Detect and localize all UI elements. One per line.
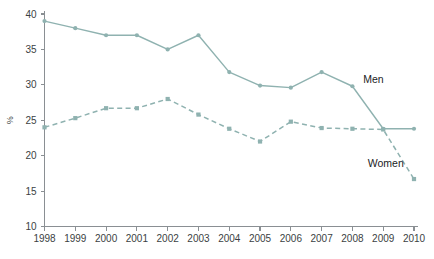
x-tick-label: 2003	[187, 233, 210, 244]
x-tick-label: 2009	[372, 233, 395, 244]
data-point-marker	[227, 127, 231, 131]
series-label-men: Men	[363, 73, 384, 85]
data-point-marker	[166, 97, 170, 101]
y-tick-label: 20	[25, 150, 37, 161]
y-tick-label: 15	[25, 186, 37, 197]
data-point-marker	[196, 112, 200, 116]
chart-canvas: 10152025303540 1998199920002001200220032…	[0, 0, 434, 259]
data-point-marker	[104, 33, 108, 37]
x-tick-label: 2002	[157, 233, 180, 244]
y-tick-label: 30	[25, 79, 37, 90]
data-point-marker	[73, 26, 77, 30]
data-point-marker	[350, 84, 354, 88]
series-label-women: Women	[368, 157, 404, 169]
data-point-marker	[381, 127, 385, 131]
data-point-marker	[166, 47, 170, 51]
data-point-marker	[73, 116, 77, 120]
x-tick-label: 2008	[341, 233, 364, 244]
data-point-marker	[320, 70, 324, 74]
data-point-marker	[412, 177, 416, 181]
data-point-marker	[227, 70, 231, 74]
data-point-marker	[289, 86, 293, 90]
x-tick-label: 2004	[218, 233, 241, 244]
x-tick-label: 2006	[280, 233, 303, 244]
data-point-marker	[42, 19, 46, 23]
y-axis-title: %	[5, 116, 15, 124]
data-point-marker	[104, 106, 108, 110]
x-tick-label: 1999	[64, 233, 87, 244]
x-tick-label: 2005	[249, 233, 272, 244]
x-tick-label: 2001	[126, 233, 149, 244]
data-point-marker	[412, 127, 416, 131]
data-point-marker	[135, 33, 139, 37]
line-chart: 10152025303540 1998199920002001200220032…	[0, 0, 434, 259]
data-point-marker	[320, 126, 324, 130]
data-point-marker	[289, 120, 293, 124]
data-point-marker	[258, 139, 262, 143]
x-tick-label: 2010	[403, 233, 426, 244]
data-point-marker	[196, 33, 200, 37]
y-tick-label: 35	[25, 44, 37, 55]
x-tick-label: 2007	[311, 233, 334, 244]
y-tick-label: 40	[25, 9, 37, 20]
y-tick-label: 25	[25, 115, 37, 126]
data-point-marker	[42, 125, 46, 129]
data-point-marker	[350, 127, 354, 131]
y-tick-label: 10	[25, 221, 37, 232]
data-point-marker	[135, 106, 139, 110]
x-tick-label: 1998	[33, 233, 56, 244]
data-point-marker	[258, 83, 262, 87]
x-tick-label: 2000	[95, 233, 118, 244]
